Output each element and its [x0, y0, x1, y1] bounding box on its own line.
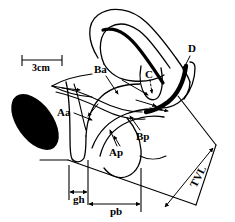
label-ap: Ap: [109, 147, 123, 158]
bladder-shape: [2, 86, 69, 159]
label-aa: Aa: [57, 107, 70, 118]
label-d: D: [188, 43, 196, 54]
popq-anatomical-diagram: 3cm Ba C D Aa Ap Bp TVL gh pb: [0, 0, 235, 222]
label-ba: Ba: [94, 64, 107, 75]
label-pb: pb: [110, 206, 122, 217]
label-c: C: [145, 69, 153, 80]
posterior-vaginal-wall: [92, 109, 166, 178]
label-gh: gh: [73, 194, 85, 205]
label-bp: Bp: [136, 131, 149, 142]
label-leader-ap: [110, 130, 120, 146]
scale-bar-label: 3cm: [32, 63, 50, 73]
diagram-canvas: [0, 0, 235, 222]
label-leader-c: [150, 80, 152, 93]
